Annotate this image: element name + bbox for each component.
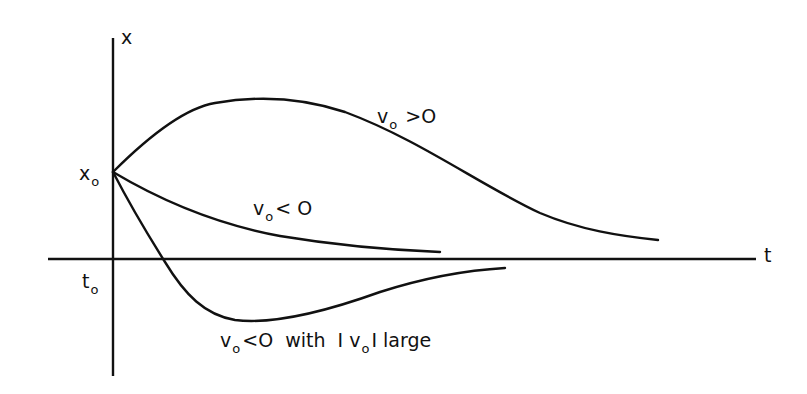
label-sub: o (232, 341, 240, 356)
origin-time-label: to (82, 272, 100, 291)
x0-base: x (79, 162, 90, 184)
label-v: v (220, 329, 231, 351)
label-v: v (253, 197, 264, 219)
t0-sub: o (90, 282, 98, 297)
t-axis-label: t (764, 246, 771, 265)
t0-base: t (82, 270, 89, 292)
initial-position-label: xo (79, 164, 101, 183)
label-relation: >O (399, 105, 436, 127)
curve-negative-velocity-large (113, 172, 505, 321)
label-negative-velocity-large: vo<O with I voI large (220, 331, 431, 350)
label-sub: o (389, 117, 397, 132)
label-sub: o (265, 209, 273, 224)
label-sub-2: o (361, 341, 369, 356)
label-positive-velocity: vo >O (377, 107, 436, 126)
label-negative-velocity: vo< O (253, 199, 312, 218)
t-axis-label-text: t (764, 244, 771, 266)
label-v: v (377, 105, 388, 127)
x-axis-label: x (121, 28, 132, 47)
x-axis-label-text: x (121, 26, 132, 48)
label-relation: <O with I v (242, 329, 360, 351)
x0-sub: o (91, 174, 99, 189)
label-relation: < O (275, 197, 312, 219)
label-suffix: I large (371, 329, 431, 351)
